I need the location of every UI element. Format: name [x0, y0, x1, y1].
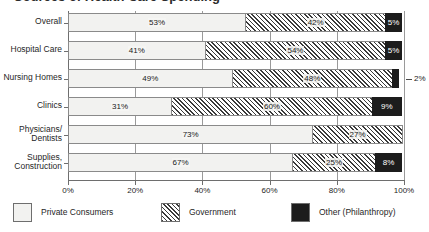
x-tick-mark [135, 181, 136, 185]
x-tick-label: 100% [394, 186, 414, 195]
segment-value-label: 67% [172, 158, 190, 167]
bar-row: 73%27% [68, 125, 404, 144]
bar-segment: 25% [292, 153, 376, 172]
chart-legend: Private ConsumersGovernmentOther (Philan… [13, 202, 417, 224]
category-tick-mark [64, 23, 68, 24]
category-tick-mark [64, 107, 68, 108]
x-tick-label: 40% [194, 186, 210, 195]
bar-row: 31%60%9% [68, 97, 404, 116]
bar-segment: 73% [68, 125, 313, 144]
category-tick-mark [64, 135, 68, 136]
x-tick-label: 0% [62, 186, 74, 195]
segment-value-label: 60% [263, 102, 281, 111]
legend-item[interactable]: Other (Philanthropy) [291, 202, 396, 222]
category-label: Supplies, Construction [0, 153, 62, 172]
bar-segment: 5% [385, 41, 402, 60]
bar-segment: 2% [392, 69, 399, 88]
segment-value-label: 53% [148, 18, 166, 27]
segment-value-label: 9% [380, 102, 394, 111]
legend-label: Private Consumers [41, 207, 113, 217]
x-tick-label: 20% [127, 186, 143, 195]
light-dotted-swatch [13, 203, 32, 222]
x-axis-line [68, 180, 405, 181]
segment-value-label: 5% [387, 46, 401, 55]
category-label: Overall [0, 17, 62, 27]
category-tick-mark [64, 79, 68, 80]
bar-row: 49%48%2% [68, 69, 404, 88]
bar-segment: 67% [68, 153, 293, 172]
bar-segment: 60% [171, 97, 373, 116]
bar-segment: 42% [245, 13, 386, 32]
x-tick-mark [68, 181, 69, 185]
x-tick-label: 60% [262, 186, 278, 195]
legend-item[interactable]: Private Consumers [13, 202, 113, 222]
bar-segment: 53% [68, 13, 246, 32]
segment-value-label: 25% [325, 158, 343, 167]
legend-label: Other (Philanthropy) [319, 207, 396, 217]
segment-value-label: 49% [141, 74, 159, 83]
bar-segment: 48% [232, 69, 393, 88]
segment-value-label: 54% [286, 46, 304, 55]
bar-segment: 54% [205, 41, 386, 60]
bar-segment: 49% [68, 69, 233, 88]
bar-segment: 9% [372, 97, 402, 116]
segment-value-label: 5% [387, 18, 401, 27]
segment-value-label: 8% [382, 158, 396, 167]
category-label: Hospital Care [0, 45, 62, 55]
segment-value-label: 31% [111, 102, 129, 111]
bar-segment: 27% [312, 125, 403, 144]
gridline [404, 11, 405, 180]
bar-segment: 31% [68, 97, 172, 116]
legend-label: Government [189, 207, 236, 217]
segment-value-callout: 2% [414, 74, 426, 83]
x-tick-mark [337, 181, 338, 185]
category-tick-mark [64, 163, 68, 164]
bar-row: 53%42%5% [68, 13, 404, 32]
category-label: Physicians/ Dentists [0, 125, 62, 144]
solid-black-swatch [291, 203, 310, 222]
category-label: Nursing Homes [0, 73, 62, 83]
bar-row: 41%54%5% [68, 41, 404, 60]
callout-leader-line [406, 79, 412, 80]
bar-row: 67%25%8% [68, 153, 404, 172]
category-label: Clinics [0, 101, 62, 111]
segment-value-label: 48% [303, 74, 321, 83]
bar-segment: 5% [385, 13, 402, 32]
legend-item[interactable]: Government [161, 202, 236, 222]
segment-value-label: 27% [349, 130, 367, 139]
bar-segment: 8% [375, 153, 402, 172]
x-tick-label: 80% [329, 186, 345, 195]
bar-segment: 41% [68, 41, 206, 60]
diagonal-hatch-swatch [161, 203, 180, 222]
category-tick-mark [64, 51, 68, 52]
segment-value-label: 73% [182, 130, 200, 139]
x-tick-mark [202, 181, 203, 185]
x-tick-mark [404, 181, 405, 185]
segment-value-label: 42% [307, 18, 325, 27]
segment-value-label: 41% [128, 46, 146, 55]
x-tick-mark [270, 181, 271, 185]
